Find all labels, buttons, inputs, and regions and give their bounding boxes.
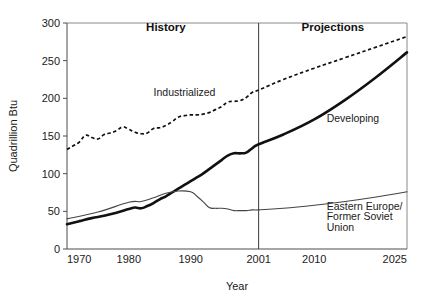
chart-annotation-label: Union: [327, 221, 355, 233]
energy-consumption-chart: 050100150200250300 197019801990200120102…: [0, 0, 435, 297]
chart-annotations: HistoryProjectionsIndustrializedDevelopi…: [146, 21, 403, 233]
y-axis-title: Quadrillion Btu: [7, 100, 19, 172]
y-tick-label: 100: [42, 168, 60, 180]
series-line-developing: [67, 52, 407, 224]
chart-canvas: 050100150200250300 197019801990200120102…: [0, 0, 435, 297]
x-tick-label: 1990: [178, 253, 202, 265]
y-tick-label: 0: [54, 243, 60, 255]
y-tick-label: 150: [42, 130, 60, 142]
y-tick-label: 300: [42, 17, 60, 29]
chart-annotation-label: Projections: [301, 21, 364, 33]
chart-annotation-label: Developing: [327, 112, 380, 124]
x-axis-ticks: 197019801990200120102025: [67, 253, 407, 265]
chart-annotation-label: Industrialized: [154, 86, 216, 98]
y-tick-label: 50: [48, 205, 60, 217]
x-tick-label: 2001: [246, 253, 270, 265]
x-axis-title: Year: [226, 280, 249, 292]
x-tick-label: 2025: [383, 253, 407, 265]
x-tick-label: 1970: [67, 253, 91, 265]
chart-annotation-label: History: [146, 21, 186, 33]
x-tick-label: 2010: [302, 253, 326, 265]
x-tick-label: 1980: [117, 253, 141, 265]
y-tick-label: 200: [42, 92, 60, 104]
y-tick-label: 250: [42, 55, 60, 67]
y-axis-ticks: 050100150200250300: [42, 17, 67, 255]
